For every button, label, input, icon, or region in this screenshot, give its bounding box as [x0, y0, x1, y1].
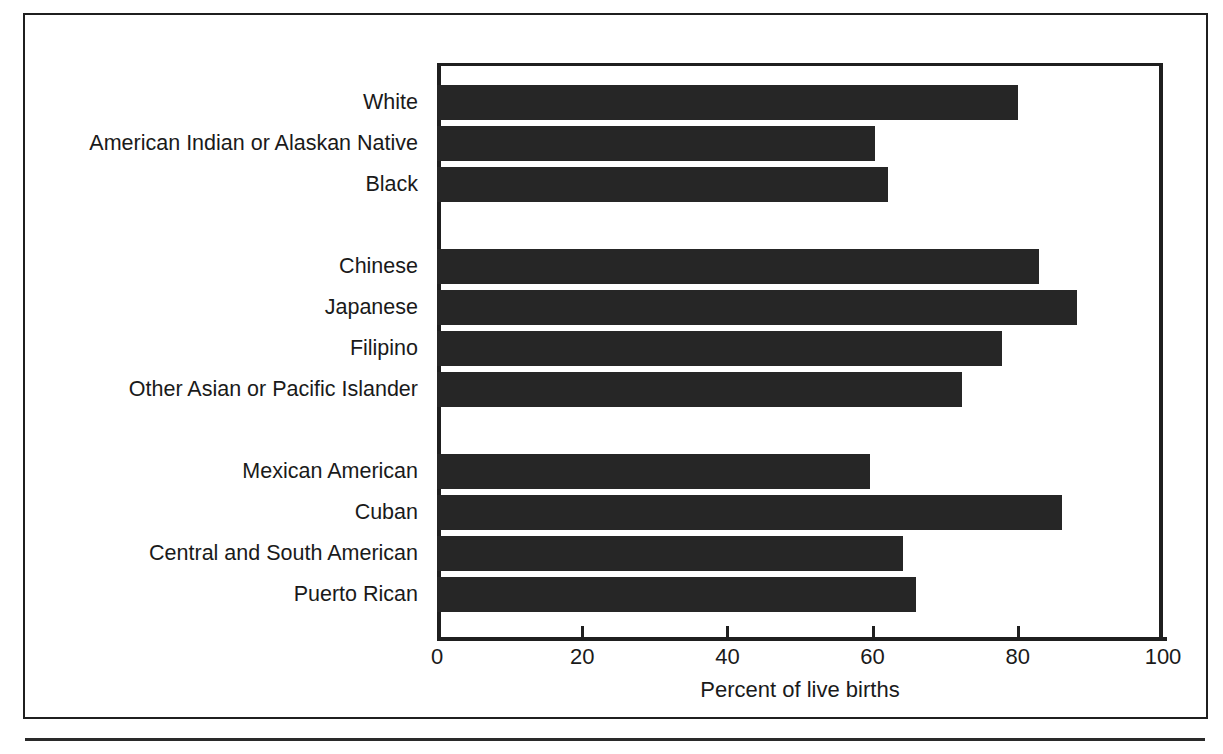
- category-label: Black: [0, 167, 418, 202]
- x-axis-line: [437, 637, 1167, 641]
- category-label: Chinese: [0, 249, 418, 284]
- x-tick-label: 40: [715, 643, 739, 671]
- bar: [437, 495, 1062, 530]
- bar: [437, 536, 903, 571]
- category-label: Japanese: [0, 290, 418, 325]
- bar: [437, 290, 1077, 325]
- bar: [437, 372, 962, 407]
- plot-border-right: [1159, 63, 1163, 641]
- category-label: Central and South American: [0, 536, 418, 571]
- category-label: White: [0, 85, 418, 120]
- bar: [437, 249, 1039, 284]
- category-labels: WhiteAmerican Indian or Alaskan NativeBl…: [0, 63, 428, 641]
- bar: [437, 85, 1018, 120]
- x-axis-label: Percent of live births: [437, 677, 1163, 703]
- x-tick-label: 100: [1145, 643, 1182, 671]
- x-tick-label: 20: [570, 643, 594, 671]
- x-tick-label: 60: [860, 643, 884, 671]
- bar: [437, 577, 916, 612]
- x-tick-label: 0: [431, 643, 443, 671]
- x-tick: [581, 626, 584, 638]
- category-label: Other Asian or Pacific Islander: [0, 372, 418, 407]
- category-label: American Indian or Alaskan Native: [0, 126, 418, 161]
- category-label: Filipino: [0, 331, 418, 366]
- bar: [437, 331, 1002, 366]
- category-label: Puerto Rican: [0, 577, 418, 612]
- bar: [437, 454, 870, 489]
- category-label: Mexican American: [0, 454, 418, 489]
- figure-bottom-rule: [25, 738, 1205, 741]
- x-tick: [872, 626, 875, 638]
- bar: [437, 167, 888, 202]
- x-tick: [1017, 626, 1020, 638]
- x-tick-label: 80: [1006, 643, 1030, 671]
- category-label: Cuban: [0, 495, 418, 530]
- x-tick: [726, 626, 729, 638]
- plot-border-top: [437, 63, 1163, 66]
- bar: [437, 126, 875, 161]
